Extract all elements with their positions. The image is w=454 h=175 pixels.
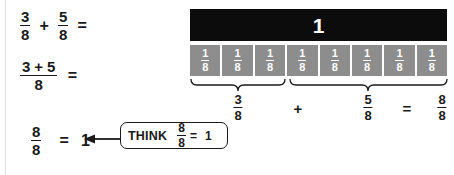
numerator: 5 [363, 93, 372, 107]
fraction-five-eighths: 5 8 [363, 93, 372, 122]
unit-fraction: 1 8 [266, 48, 274, 73]
unit-fraction: 1 8 [234, 48, 242, 73]
fraction-three-eighths: 3 8 [20, 9, 30, 42]
plus-operator: + [40, 18, 49, 34]
numerator: 1 [331, 48, 339, 60]
equals-operator: = [68, 68, 77, 84]
group-label-three-eighths: 3 8 [233, 93, 242, 122]
equals-operator: = [403, 100, 412, 117]
brace-second-group [290, 79, 447, 91]
denominator: 8 [266, 60, 274, 73]
numerator: 8 [31, 124, 41, 140]
left-margin-rule [5, 0, 6, 175]
unit-fraction: 1 8 [201, 48, 209, 73]
unit-cell: 1 8 [320, 45, 350, 76]
unit-cell: 1 8 [222, 45, 252, 76]
plus-operator: + [294, 100, 303, 117]
numerator: 1 [363, 48, 371, 60]
denominator: 8 [331, 60, 339, 73]
numerator: 1 [395, 48, 403, 60]
fraction-sum-over-eight: 3+5 8 [20, 59, 57, 92]
numerator-plus-operator: + [34, 58, 43, 75]
numerator-first-term: 3 [22, 58, 30, 75]
unit-cell: 1 8 [190, 45, 220, 76]
equation-step-1: 3 8 + 5 8 = [20, 9, 92, 42]
equals-operator: = [190, 130, 197, 142]
fraction-eight-eighths: 8 8 [177, 122, 186, 149]
whole-bar: 1 [190, 9, 447, 41]
numerator-expression: 3+5 [20, 59, 57, 75]
unit-fraction: 1 8 [298, 48, 306, 73]
numerator: 8 [177, 122, 186, 135]
denominator: 8 [58, 25, 68, 42]
fraction-five-eighths: 5 8 [58, 9, 68, 42]
numerator-second-term: 5 [47, 58, 55, 75]
unit-cell: 1 8 [417, 45, 447, 76]
equals-operator: = [60, 133, 69, 149]
group-label-five-eighths: 5 8 [363, 93, 372, 122]
denominator: 8 [363, 60, 371, 73]
numerator: 8 [437, 93, 446, 107]
callout-arrow-icon [84, 134, 121, 144]
total-label-eight-eighths: 8 8 [437, 93, 446, 122]
numerator: 5 [58, 9, 68, 25]
whole-bar-label: 1 [313, 15, 325, 36]
unit-fraction: 1 8 [395, 48, 403, 73]
numerator: 3 [233, 93, 242, 107]
brace-first-group [191, 79, 285, 91]
unit-fraction-row: 1 8 1 8 1 8 1 8 1 8 [190, 45, 447, 76]
denominator: 8 [437, 107, 446, 122]
denominator: 8 [177, 135, 186, 149]
unit-fraction: 1 8 [428, 48, 436, 73]
bar-model-labels: 3 8 + 5 8 = 8 8 [188, 93, 450, 127]
numerator: 3 [20, 9, 30, 25]
think-label: THINK [128, 129, 167, 143]
unit-fraction: 1 8 [363, 48, 371, 73]
worksheet-figure: 3 8 + 5 8 = 3+5 8 = 8 8 = 1 THINK [0, 0, 454, 175]
fraction-eight-eighths: 8 8 [437, 93, 446, 122]
denominator: 8 [395, 60, 403, 73]
numerator: 1 [298, 48, 306, 60]
denominator: 8 [298, 60, 306, 73]
denominator: 8 [234, 60, 242, 73]
denominator: 8 [31, 140, 41, 157]
fraction-three-eighths: 3 8 [233, 93, 242, 122]
unit-fraction: 1 8 [331, 48, 339, 73]
equals-operator: = [78, 18, 87, 34]
fraction-eight-eighths: 8 8 [31, 124, 41, 157]
denominator: 8 [363, 107, 372, 122]
numerator: 1 [234, 48, 242, 60]
unit-cell: 1 8 [352, 45, 382, 76]
numerator: 1 [428, 48, 436, 60]
numerator: 1 [266, 48, 274, 60]
denominator: 8 [20, 75, 57, 92]
denominator: 8 [20, 25, 30, 42]
result-value: 1 [205, 130, 212, 142]
group-braces [188, 78, 450, 92]
denominator: 8 [201, 60, 209, 73]
unit-cell: 1 8 [384, 45, 414, 76]
denominator: 8 [428, 60, 436, 73]
unit-cell: 1 8 [255, 45, 285, 76]
numerator: 1 [201, 48, 209, 60]
equation-step-2: 3+5 8 = [20, 59, 83, 92]
unit-cell: 1 8 [287, 45, 317, 76]
denominator: 8 [233, 107, 242, 122]
